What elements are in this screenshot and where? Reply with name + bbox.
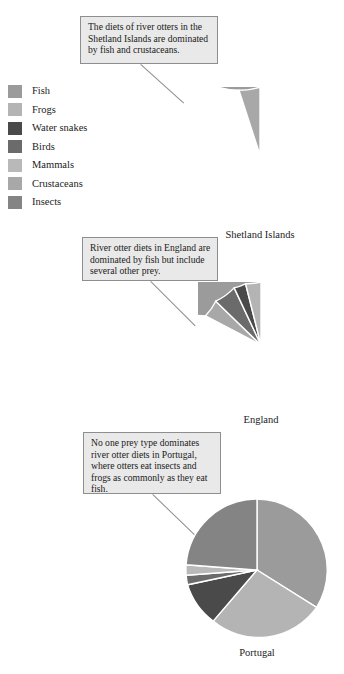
legend-label-crustaceans: Crustaceans: [32, 179, 83, 190]
legend-item-insects: Insects: [8, 193, 118, 212]
legend-swatch-crustaceans: [8, 177, 22, 190]
portugal-callout-box: No one prey type dominates river otter d…: [83, 432, 221, 494]
legend-item-birds: Birds: [8, 138, 118, 157]
england-callout-box: River otter diets in England are dominat…: [82, 237, 218, 281]
legend-label-frogs: Frogs: [32, 105, 56, 116]
legend-item-crustaceans: Crustaceans: [8, 175, 118, 194]
pie-portugal-svg: [186, 499, 328, 641]
shetland-callout-text: The diets of river otters in the Shetlan…: [88, 21, 211, 56]
legend-item-frogs: Frogs: [8, 101, 118, 120]
legend-swatch-mammals: [8, 159, 22, 172]
england-callout-leader: [150, 281, 195, 326]
legend-swatch-fish: [8, 85, 22, 98]
legend-item-water-snakes: Water snakes: [8, 119, 118, 138]
shetland-callout-box: The diets of river otters in the Shetlan…: [80, 16, 218, 64]
legend-item-mammals: Mammals: [8, 156, 118, 175]
legend-label-birds: Birds: [32, 142, 55, 153]
pie-chart-shetland: Shetland Islands: [192, 87, 328, 247]
legend-label-fish: Fish: [32, 86, 50, 97]
legend-swatch-frogs: [8, 103, 22, 116]
england-callout-text: River otter diets in England are dominat…: [90, 242, 211, 277]
legend-swatch-birds: [8, 140, 22, 153]
pie-caption-england: England: [181, 414, 341, 425]
pie-shetland-svg: [192, 87, 328, 223]
legend-swatch-insects: [8, 196, 22, 209]
pie-caption-portugal: Portugal: [177, 647, 337, 658]
legend-swatch-water-snakes: [8, 122, 22, 135]
figure-canvas: Fish Frogs Water snakes Birds Mammals Cr…: [0, 0, 344, 674]
pie-slice-portugal-insects: [186, 499, 257, 570]
legend-item-fish: Fish: [8, 82, 118, 101]
pie-slice-shetland-crustaceans: [239, 87, 260, 155]
legend-label-water-snakes: Water snakes: [32, 123, 87, 134]
shetland-callout-leader: [140, 64, 184, 104]
pie-chart-england: England: [198, 282, 324, 432]
legend: Fish Frogs Water snakes Birds Mammals Cr…: [8, 82, 118, 212]
pie-england-svg: [198, 282, 324, 408]
legend-label-insects: Insects: [32, 197, 61, 208]
legend-label-mammals: Mammals: [32, 160, 74, 171]
portugal-callout-text: No one prey type dominates river otter d…: [91, 437, 214, 495]
pie-chart-portugal: Portugal: [186, 499, 328, 665]
